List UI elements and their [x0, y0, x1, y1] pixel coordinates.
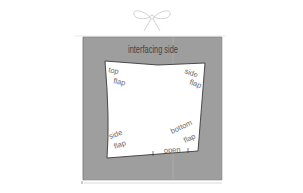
label-open: open [164, 145, 181, 155]
diagram-canvas: interfacing side top flap side flap side… [0, 0, 303, 193]
ribbon-bow-icon [134, 11, 171, 31]
diagram-title: interfacing side [128, 44, 178, 55]
